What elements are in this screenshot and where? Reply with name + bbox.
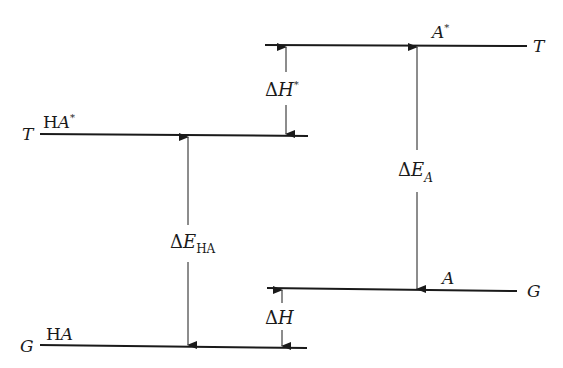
state-label-A-T: T (533, 36, 546, 56)
level-A-excited (265, 45, 527, 46)
energy-diagram: A* T HA* T A G HA G ΔH* ΔEHA ΔEA ΔH (0, 0, 563, 368)
label-dE-HA: ΔEHA (170, 231, 216, 256)
label-A-excited: A* (430, 22, 449, 42)
level-A-ground (267, 288, 517, 291)
state-label-A-G: G (527, 281, 541, 301)
label-HA-excited: HA* (43, 112, 75, 132)
label-dH-star: ΔH* (265, 79, 299, 100)
label-HA-ground: HA (46, 324, 73, 344)
level-HA-ground (40, 345, 307, 348)
level-HA-excited (40, 134, 308, 136)
label-A-ground: A (440, 268, 454, 288)
state-label-HA-G: G (20, 336, 34, 356)
label-dH: ΔH (265, 307, 294, 328)
label-dE-A: ΔEA (398, 159, 433, 185)
state-label-HA-T: T (22, 124, 35, 144)
